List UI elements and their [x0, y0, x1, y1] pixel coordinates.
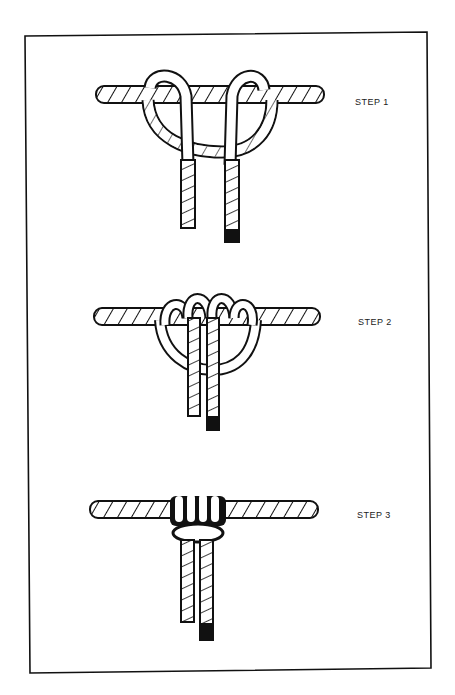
step-3-label: STEP 3: [357, 510, 391, 520]
step-1-label: STEP 1: [355, 97, 389, 107]
step-1-knot: [96, 76, 324, 242]
step-2-knot: [94, 299, 320, 431]
step-2-label: STEP 2: [358, 317, 392, 327]
step-3-knot: [90, 494, 318, 640]
diagram-frame: STEP 1 STEP 2 STEP 3: [0, 0, 455, 695]
